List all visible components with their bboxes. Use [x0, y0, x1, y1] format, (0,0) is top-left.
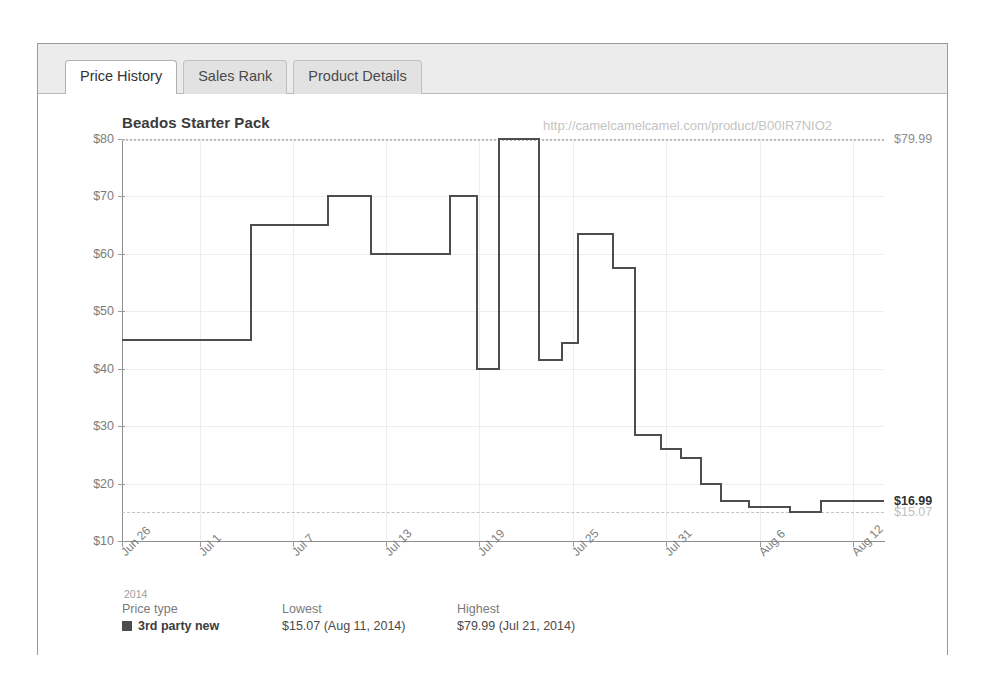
highest-price-label: $79.99	[894, 132, 932, 146]
legend-year: 2014	[122, 588, 575, 600]
tab-list: Price HistorySales RankProduct Details	[65, 60, 422, 94]
y-tick-label-60: $60	[78, 247, 114, 261]
price-series-3rd-party-new	[122, 139, 885, 542]
y-tick-label-20: $20	[78, 477, 114, 491]
legend-price-type-label: 3rd party new	[138, 619, 219, 633]
tab-strip: Price HistorySales RankProduct Details	[38, 44, 947, 94]
chart-title: Beados Starter Pack	[122, 114, 270, 131]
chart-legend: 2014 Price type Lowest Highest 3rd party…	[122, 588, 575, 633]
price-history-card: Price HistorySales RankProduct Details B…	[37, 43, 948, 655]
legend-body: 3rd party new$15.07 (Aug 11, 2014)$79.99…	[122, 619, 575, 633]
y-tick-label-30: $30	[78, 419, 114, 433]
legend-price-type: 3rd party new	[122, 619, 282, 633]
legend-color-swatch-icon	[122, 621, 132, 631]
legend-table: Price type Lowest Highest 3rd party new$…	[122, 602, 575, 633]
chart-panel: Beados Starter Pack http://camelcamelcam…	[38, 94, 947, 655]
screenshot-root: Price HistorySales RankProduct Details B…	[0, 0, 984, 681]
legend-header-row: Price type Lowest Highest	[122, 602, 575, 619]
tab-price-history[interactable]: Price History	[65, 60, 177, 94]
legend-header-price-type: Price type	[122, 602, 282, 619]
y-tick-label-80: $80	[78, 132, 114, 146]
y-tick-label-70: $70	[78, 189, 114, 203]
legend-row: 3rd party new$15.07 (Aug 11, 2014)$79.99…	[122, 619, 575, 633]
tab-product-details[interactable]: Product Details	[293, 60, 421, 94]
source-url-watermark: http://camelcamelcamel.com/product/B00IR…	[543, 118, 832, 133]
legend-header-highest: Highest	[457, 602, 575, 619]
legend-lowest-value: $15.07 (Aug 11, 2014)	[282, 619, 457, 633]
lowest-price-label: $15.07	[894, 505, 932, 519]
y-tick-label-50: $50	[78, 304, 114, 318]
legend-header-lowest: Lowest	[282, 602, 457, 619]
tab-sales-rank[interactable]: Sales Rank	[183, 60, 287, 94]
legend-highest-value: $79.99 (Jul 21, 2014)	[457, 619, 575, 633]
price-chart-plot[interactable]: $10$20$30$40$50$60$70$80 Jun 26Jul 1Jul …	[122, 139, 884, 542]
y-tick-label-10: $10	[78, 534, 114, 548]
y-tick-label-40: $40	[78, 362, 114, 376]
